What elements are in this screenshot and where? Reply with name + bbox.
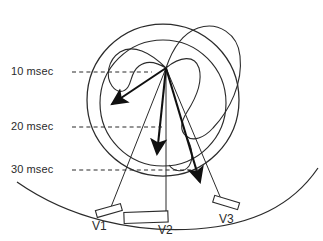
figure-canvas: 10 msec 20 msec 30 msec V1 V2 V3: [0, 0, 323, 241]
electrode-pad-v1: [95, 204, 122, 218]
electrode-pads: [95, 195, 239, 223]
lead-line-v3: [166, 68, 224, 206]
vector-2-down: [157, 68, 166, 154]
time-marker-label-20msec: 20 msec: [11, 120, 53, 132]
electrode-label-v1: V1: [92, 219, 107, 233]
electrode-pad-v3: [213, 195, 240, 209]
lead-projection-lines: [109, 68, 224, 216]
electrode-pad-v2: [124, 211, 168, 224]
electrode-label-v2: V2: [158, 223, 173, 237]
electrode-label-v3: V3: [219, 212, 234, 226]
time-marker-label-30msec: 30 msec: [11, 163, 53, 175]
time-marker-label-10msec: 10 msec: [11, 65, 53, 77]
activation-vectors: [112, 68, 200, 182]
vector-1-left: [112, 68, 166, 104]
